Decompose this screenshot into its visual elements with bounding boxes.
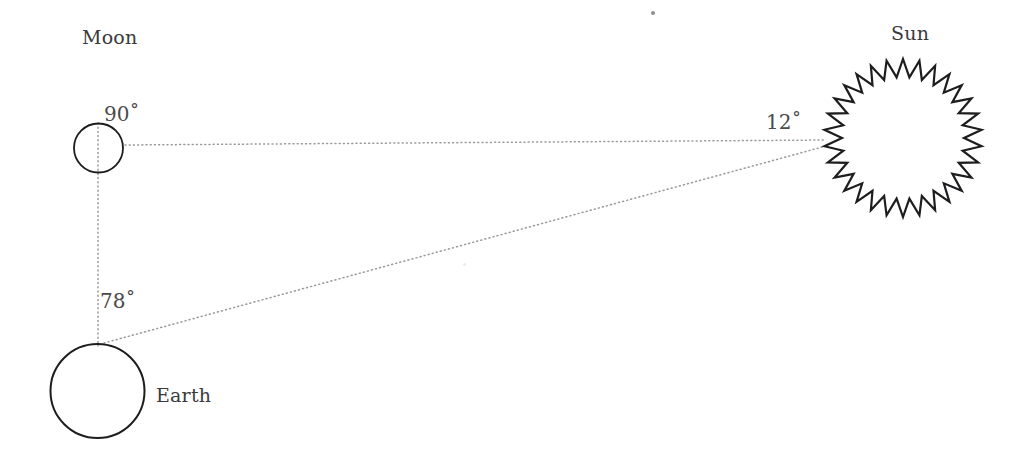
diagram-canvas: Moon Sun Earth 90˚ 78˚ 12˚ [0, 0, 1036, 460]
sight-lines-group [98, 123, 826, 346]
sun-label: Sun [891, 24, 929, 43]
top-speck [651, 11, 655, 15]
earth-label: Earth [156, 386, 211, 405]
angle-label-at-sun: 12˚ [766, 112, 801, 132]
moon-label: Moon [82, 28, 137, 47]
earth-circle [51, 344, 145, 438]
sun-star [824, 59, 981, 217]
angle-label-at-moon: 90˚ [104, 104, 139, 124]
earth-to-sun-line [104, 146, 826, 343]
moon-to-sun-line [125, 140, 826, 145]
angle-label-at-earth: 78˚ [100, 291, 135, 311]
mid-speck [463, 263, 466, 266]
